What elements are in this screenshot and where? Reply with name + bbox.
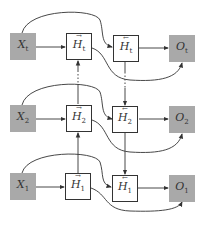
output-node-o2: O2 (169, 106, 195, 133)
node-subscript: 1 (128, 188, 132, 196)
left-arrow-icon: ← (118, 106, 132, 113)
forward-hidden-node-1: →H1 (65, 173, 91, 200)
left-arrow-icon: ← (118, 175, 132, 182)
node-subscript: 2 (82, 118, 86, 126)
node-subscript: t (185, 48, 188, 56)
node-label: X (17, 110, 25, 123)
node-subscript: t (82, 46, 85, 54)
node-subscript: 2 (184, 119, 188, 127)
node-subscript: 1 (81, 186, 85, 194)
input-node-x2: X2 (10, 105, 36, 132)
node-label: O (176, 40, 185, 53)
output-node-ot: Ot (169, 35, 195, 62)
input-node-x1: X1 (10, 173, 36, 200)
left-arrow-icon: ← (120, 35, 132, 42)
node-label: O (175, 111, 184, 124)
backward-hidden-node-1: ←H1 (112, 175, 138, 202)
node-subscript: 1 (25, 186, 29, 194)
node-subscript: 2 (25, 118, 29, 126)
backward-hidden-node-2: ←H2 (112, 106, 138, 133)
node-label: X (18, 38, 26, 51)
node-label: X (17, 178, 25, 191)
forward-hidden-node-t: →Ht (66, 33, 92, 60)
node-subscript: t (26, 46, 29, 54)
node-subscript: t (129, 48, 132, 56)
node-subscript: 2 (128, 119, 132, 127)
right-arrow-icon: → (71, 173, 85, 180)
input-node-xt: Xt (10, 33, 36, 60)
right-arrow-icon: → (73, 33, 85, 40)
backward-hidden-node-t: ←Ht (113, 35, 139, 62)
node-label: O (175, 180, 184, 193)
output-node-o1: O1 (169, 175, 195, 202)
forward-hidden-node-2: →H2 (66, 105, 92, 132)
right-arrow-icon: → (72, 105, 86, 112)
node-subscript: 1 (184, 188, 188, 196)
